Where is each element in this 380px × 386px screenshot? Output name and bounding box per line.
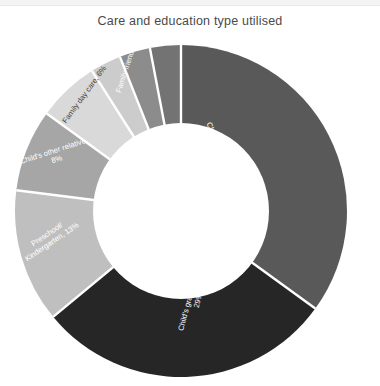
donut-plot-area: Child care centre, 35% Child's grandpare…	[12, 42, 350, 380]
donut-hole	[93, 123, 269, 299]
chart-title: Care and education type utilised	[0, 14, 380, 28]
donut-chart: Care and education type utilised Child c…	[0, 0, 380, 386]
donut-svg	[12, 42, 350, 380]
